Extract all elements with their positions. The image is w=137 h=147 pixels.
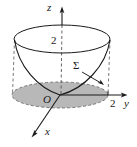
z-axis-label: z (47, 2, 51, 13)
generator-line-left (13, 40, 15, 95)
z-tick-label-2: 2 (51, 35, 57, 46)
figure-container: z y x O Σ 2 2 (0, 0, 137, 147)
sigma-leader-line (82, 72, 101, 83)
paraboloid-diagram (0, 0, 137, 147)
origin-label: O (43, 94, 51, 105)
x-axis-label: x (45, 126, 50, 137)
leader-arrow-icon (98, 80, 104, 85)
y-tick-label-2: 2 (110, 98, 116, 109)
y-axis-label: y (124, 98, 129, 109)
surface-label-sigma: Σ (73, 60, 79, 71)
x-arrow-icon (32, 130, 38, 138)
